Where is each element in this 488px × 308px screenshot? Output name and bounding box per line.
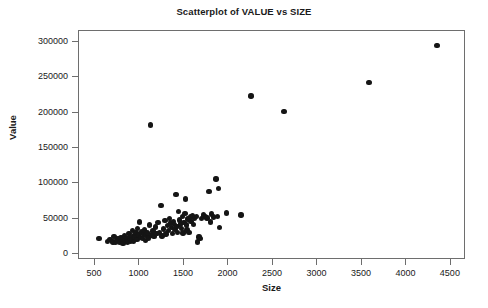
- y-tick-label: 0: [20, 248, 68, 258]
- scatter-point: [148, 122, 153, 127]
- x-tick-mark: [361, 259, 362, 265]
- y-tick-label: 150000: [20, 142, 68, 152]
- scatter-point: [186, 230, 191, 235]
- x-tick-mark: [183, 259, 184, 265]
- y-tick-label: 200000: [20, 107, 68, 117]
- x-tick-mark: [316, 259, 317, 265]
- x-tick-label: 4500: [420, 268, 480, 278]
- scatter-point: [191, 222, 196, 227]
- scatter-point: [215, 214, 220, 219]
- x-axis-label: Size: [78, 282, 465, 293]
- scatterplot-figure: Scatterplot of VALUE vs SIZE Value 05000…: [0, 0, 488, 308]
- chart-title: Scatterplot of VALUE vs SIZE: [0, 6, 488, 17]
- x-tick-mark: [272, 259, 273, 265]
- scatter-point: [281, 109, 286, 114]
- scatter-point: [155, 220, 160, 225]
- y-axis-label: Value: [7, 98, 18, 158]
- scatter-point: [137, 219, 142, 224]
- x-tick-mark: [94, 259, 95, 265]
- x-tick-mark: [227, 259, 228, 265]
- x-tick-mark: [138, 259, 139, 265]
- scatter-point: [183, 196, 188, 201]
- x-tick-mark: [450, 259, 451, 265]
- scatter-point: [224, 210, 229, 215]
- scatter-point: [213, 176, 218, 181]
- y-tick-label: 50000: [20, 213, 68, 223]
- y-tick-label: 100000: [20, 177, 68, 187]
- scatter-point: [208, 219, 213, 224]
- x-tick-mark: [405, 259, 406, 265]
- scatter-point: [217, 225, 222, 230]
- plot-area: [78, 30, 465, 259]
- y-tick-label: 250000: [20, 71, 68, 81]
- scatter-point: [216, 186, 221, 191]
- scatter-points-layer: [79, 31, 464, 258]
- scatter-point: [434, 43, 439, 48]
- scatter-point: [238, 212, 243, 217]
- scatter-point: [173, 192, 178, 197]
- y-tick-label: 300000: [20, 36, 68, 46]
- scatter-point: [248, 93, 253, 98]
- scatter-point: [158, 203, 163, 208]
- scatter-point: [206, 189, 211, 194]
- scatter-point: [153, 224, 158, 229]
- scatter-point: [366, 80, 371, 85]
- scatter-point: [197, 236, 202, 241]
- scatter-point: [96, 236, 101, 241]
- scatter-point: [147, 222, 152, 227]
